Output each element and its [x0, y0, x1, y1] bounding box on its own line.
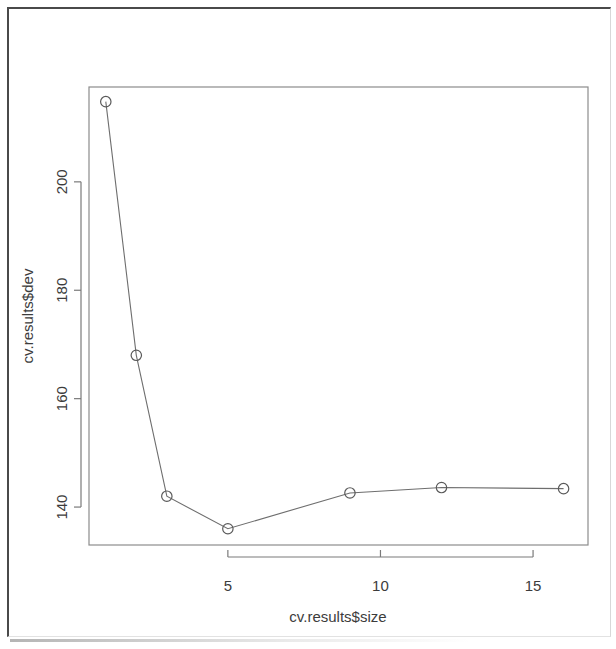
y-tick-label: 160	[54, 386, 71, 411]
x-axis-tick-labels: 51015	[224, 577, 542, 594]
y-axis-tick-marks	[74, 182, 81, 507]
y-axis-title: cv.results$dev	[19, 268, 36, 363]
y-axis-tick-labels: 140160180200	[54, 169, 71, 519]
x-axis	[228, 550, 533, 557]
x-tick-label: 15	[525, 577, 542, 594]
x-axis-tick-marks	[228, 550, 533, 557]
y-tick-label: 200	[54, 169, 71, 194]
plot-frame-box	[89, 87, 588, 545]
plot-canvas: 140160180200 51015 cv.results$size cv.re…	[0, 0, 616, 649]
series-point-markers	[101, 96, 569, 534]
x-tick-label: 10	[372, 577, 389, 594]
x-tick-label: 5	[224, 577, 232, 594]
x-axis-title: cv.results$size	[289, 608, 386, 625]
series-line-cv-results-dev	[106, 102, 564, 529]
y-axis	[74, 182, 81, 507]
figure-page: 140160180200 51015 cv.results$size cv.re…	[0, 0, 616, 649]
y-tick-label: 140	[54, 495, 71, 520]
y-tick-label: 180	[54, 278, 71, 303]
